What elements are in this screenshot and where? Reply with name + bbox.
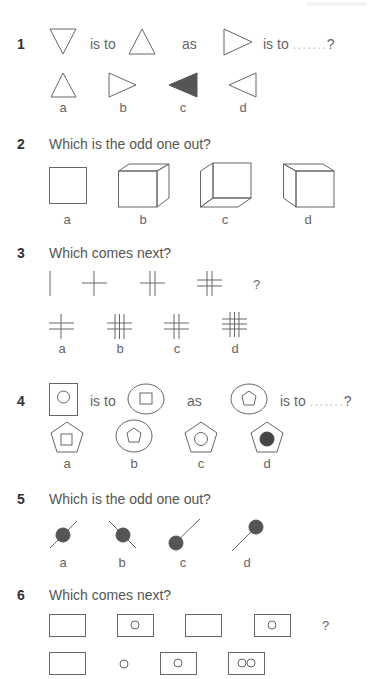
- triangle-down-icon: [49, 28, 77, 56]
- option-b-circle-icon[interactable]: [118, 658, 130, 670]
- is-to-text-2: is to: [263, 36, 289, 52]
- question-mark: ?: [344, 393, 352, 409]
- sequence-3-double-cross-icon: [140, 271, 166, 297]
- option-label-b: b: [110, 341, 130, 356]
- option-label-a: a: [53, 555, 73, 570]
- option-label-c: c: [215, 212, 235, 227]
- option-label-d: d: [233, 100, 253, 115]
- question-prompt: Which is the odd one out?: [49, 136, 211, 152]
- is-to-answer-text: is to .......?: [263, 36, 335, 52]
- is-to-text: is to: [90, 393, 116, 409]
- option-a-square-icon[interactable]: [49, 167, 87, 205]
- option-d-ball-on-line-icon[interactable]: [231, 518, 265, 552]
- sequence-1-empty-rect-icon: [49, 614, 87, 638]
- option-c-grid-icon[interactable]: [164, 314, 190, 340]
- option-label-c: c: [191, 456, 211, 471]
- option-label-d: d: [298, 212, 318, 227]
- question-prompt: Which is the odd one out?: [49, 491, 211, 507]
- question-mark: ?: [327, 36, 335, 52]
- option-c-pentagon-with-circle-icon[interactable]: [184, 421, 218, 453]
- question-number: 5: [17, 491, 25, 507]
- question-prompt: Which comes next?: [49, 245, 171, 261]
- option-d-rect-with-two-circles-icon[interactable]: [228, 652, 266, 676]
- option-label-d: d: [257, 456, 277, 471]
- option-b-grid-icon[interactable]: [107, 314, 133, 340]
- sequence-1-line-icon: [49, 271, 53, 297]
- question-number: 2: [17, 136, 25, 152]
- option-label-c: c: [173, 555, 193, 570]
- option-label-a: a: [57, 456, 77, 471]
- option-d-pentagon-with-filled-circle-icon[interactable]: [250, 421, 284, 453]
- option-label-d: d: [225, 341, 245, 356]
- option-b-cube-icon[interactable]: [118, 162, 170, 208]
- option-a-pentagon-with-square-icon[interactable]: [50, 421, 84, 453]
- is-to-answer-text: is to .......?: [280, 393, 352, 409]
- option-d-grid-icon[interactable]: [222, 312, 248, 338]
- option-a-grid-icon[interactable]: [49, 314, 75, 340]
- option-label-b: b: [133, 212, 153, 227]
- option-c-triangle-left-filled-icon[interactable]: [168, 72, 198, 98]
- option-b-triangle-right-icon[interactable]: [108, 72, 138, 98]
- page-header-cropped: [307, 2, 367, 6]
- option-label-c: c: [167, 341, 187, 356]
- option-label-b: b: [112, 555, 132, 570]
- sequence-2-cross-icon: [82, 271, 108, 297]
- option-label-a: a: [53, 100, 73, 115]
- option-c-rect-with-circle-icon[interactable]: [160, 652, 198, 676]
- option-label-d: d: [237, 555, 257, 570]
- question-prompt: Which comes next?: [49, 587, 171, 603]
- option-c-ball-on-line-icon[interactable]: [167, 518, 201, 552]
- sequence-question-mark: ?: [322, 618, 329, 633]
- option-label-a: a: [57, 212, 77, 227]
- answer-blank: .......: [310, 393, 344, 409]
- option-label-c: c: [173, 100, 193, 115]
- triangle-up-icon: [128, 28, 156, 56]
- option-d-cube-icon[interactable]: [283, 162, 335, 208]
- circle-with-pentagon-icon: [230, 383, 268, 415]
- question-number: 4: [17, 393, 25, 409]
- circle-with-square-icon: [127, 383, 165, 415]
- as-text: as: [187, 393, 202, 409]
- option-a-triangle-up-icon[interactable]: [50, 72, 78, 98]
- question-number: 3: [17, 245, 25, 261]
- option-c-cube-icon[interactable]: [200, 162, 252, 208]
- question-number: 6: [17, 587, 25, 603]
- option-label-b: b: [124, 456, 144, 471]
- option-a-empty-rect-icon[interactable]: [49, 652, 87, 676]
- sequence-4-hash-icon: [197, 271, 223, 297]
- option-d-triangle-left-icon[interactable]: [228, 72, 258, 98]
- sequence-3-empty-rect-icon: [185, 614, 223, 638]
- square-with-circle-icon: [49, 383, 79, 417]
- answer-blank: .......: [293, 36, 327, 52]
- option-b-ball-on-line-icon[interactable]: [108, 520, 138, 550]
- option-label-b: b: [113, 100, 133, 115]
- sequence-4-rect-with-circle-icon: [254, 614, 292, 638]
- sequence-2-rect-with-circle-icon: [117, 614, 155, 638]
- option-a-ball-on-line-icon[interactable]: [49, 520, 79, 550]
- is-to-text: is to: [90, 36, 116, 52]
- option-b-circle-with-pentagon-icon[interactable]: [115, 419, 153, 453]
- as-text: as: [182, 36, 197, 52]
- is-to-text-2: is to: [280, 393, 306, 409]
- sequence-question-mark: ?: [253, 277, 260, 292]
- option-label-a: a: [52, 341, 72, 356]
- question-number: 1: [17, 36, 25, 52]
- triangle-right-icon: [223, 28, 253, 56]
